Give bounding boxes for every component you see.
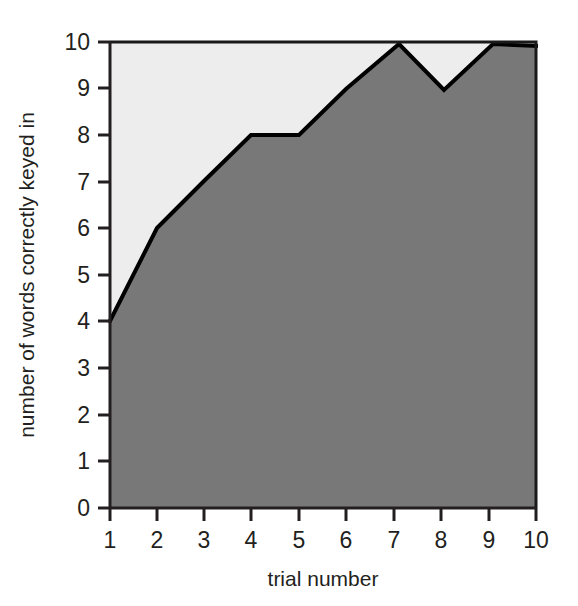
- y-tick-label-9: 9: [77, 75, 90, 101]
- x-tick-label-2: 2: [151, 527, 164, 553]
- x-tick-label-3: 3: [198, 527, 211, 553]
- y-tick-label-4: 4: [77, 308, 90, 334]
- y-tick-label-6: 6: [77, 215, 90, 241]
- y-tick-label-10: 10: [64, 29, 90, 55]
- chart-figure: 0 1 2 3 4 5 6 7 8 9 10 1 2 3 4 5 6 7 8 9…: [0, 0, 578, 606]
- x-tick-label-7: 7: [388, 527, 401, 553]
- x-tick-label-8: 8: [435, 527, 448, 553]
- y-tick-label-7: 7: [77, 169, 90, 195]
- x-tick-label-9: 9: [483, 527, 496, 553]
- y-tick-label-3: 3: [77, 355, 90, 381]
- y-tick-label-0: 0: [77, 495, 90, 521]
- x-tick-label-1: 1: [104, 527, 117, 553]
- chart-canvas: 0 1 2 3 4 5 6 7 8 9 10 1 2 3 4 5 6 7 8 9…: [0, 0, 578, 606]
- x-tick-label-10: 10: [523, 527, 549, 553]
- y-tick-label-1: 1: [77, 448, 90, 474]
- x-tick-label-5: 5: [293, 527, 306, 553]
- x-tick-label-4: 4: [245, 527, 258, 553]
- x-tick-label-6: 6: [340, 527, 353, 553]
- y-tick-label-5: 5: [77, 262, 90, 288]
- x-axis-title: trial number: [268, 567, 379, 590]
- y-axis-title: number of words correctly keyed in: [15, 112, 38, 438]
- y-tick-label-8: 8: [77, 122, 90, 148]
- y-tick-label-2: 2: [77, 402, 90, 428]
